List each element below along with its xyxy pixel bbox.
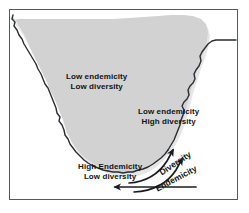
label-south-tip-line1: High Endemicity	[78, 162, 142, 172]
map-frame: Low endemicity Low diversity Low endemic…	[9, 9, 238, 200]
label-interior-north: Low endemicity Low diversity	[66, 72, 127, 92]
label-south-tip-line2: Low diversity	[78, 172, 142, 182]
label-east-coast-line1: Low endemicity	[138, 107, 199, 117]
label-south-tip: High Endemicity Low diversity	[78, 162, 142, 182]
figure-root: Low endemicity Low diversity Low endemic…	[0, 0, 249, 213]
label-east-coast: Low endemicity High diversity	[138, 107, 199, 127]
landmass	[10, 15, 208, 173]
label-interior-north-line1: Low endemicity	[66, 72, 127, 82]
label-interior-north-line2: Low diversity	[66, 82, 127, 92]
label-east-coast-line2: High diversity	[138, 117, 199, 127]
